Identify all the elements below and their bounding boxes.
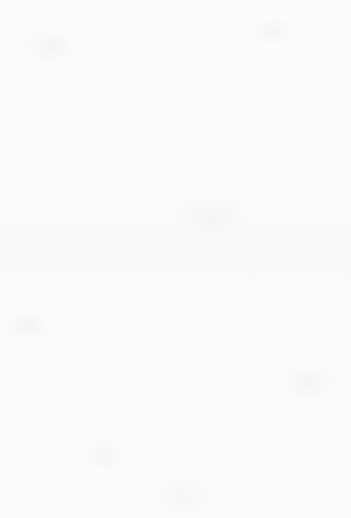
label-joint-h: H (60, 233, 72, 253)
fbd-member-left-leg (126, 408, 186, 518)
force-arrow-p (199, 196, 211, 262)
section-point-f (212, 136, 219, 143)
pin-joint-e (240, 183, 249, 192)
label-vector-vf: VF (251, 446, 269, 465)
label-joint-g: G (166, 196, 178, 216)
label-vector-vg: VG (177, 472, 196, 491)
label-load-p: P (199, 265, 208, 282)
label-joint-f: F (228, 106, 238, 126)
caption-figure-a: (a) (165, 331, 182, 348)
figure-page: B F D E G H A C P (a) (0, 0, 351, 518)
section-point-h (96, 233, 103, 240)
label-fbd-joint-b: B (176, 398, 186, 418)
section-point-g (201, 184, 208, 191)
ground-shadow-right (280, 294, 340, 304)
vector-mf-name: M (249, 484, 263, 500)
label-vector-mf: MF (249, 484, 271, 503)
vector-mf-subscript: F (263, 491, 270, 503)
vector-vg-subscript: G (188, 479, 196, 491)
label-support-a: A (36, 266, 46, 286)
vector-vf-subscript: F (262, 453, 269, 465)
ground-hatch-left (29, 293, 97, 300)
pin-joint-d (121, 183, 130, 192)
vector-vf-name: V (251, 446, 262, 462)
label-joint-b: B (176, 50, 186, 70)
label-joint-d: D (100, 167, 112, 187)
vector-vg-name: V (177, 472, 188, 488)
pin-joint-b (178, 83, 188, 93)
label-joint-e: E (256, 167, 266, 187)
label-support-c: C (328, 264, 339, 284)
